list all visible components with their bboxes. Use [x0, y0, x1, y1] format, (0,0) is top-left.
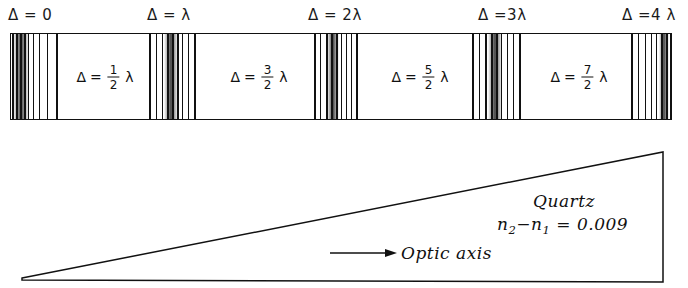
fringe-line [472, 34, 474, 119]
n1-symbol: n1 [531, 214, 550, 234]
band-label-three-half-lambda: Δ = 3 2 λ [230, 63, 287, 90]
fringe-line [182, 34, 183, 119]
fringe-line [188, 34, 189, 119]
fringe-line [24, 34, 26, 119]
lambda-symbol: λ [440, 69, 448, 85]
fringe-line [491, 34, 493, 119]
fringe-line [507, 34, 508, 119]
fringe-line [326, 34, 328, 119]
fraction: 5 2 [423, 63, 435, 90]
fringe-line [194, 34, 196, 119]
fringe-line [519, 34, 521, 119]
fringe-line [670, 34, 672, 119]
equals-symbol: = [244, 69, 256, 85]
fringe-group-order-4 [629, 34, 672, 119]
fringe-line [149, 34, 151, 119]
delta-label-3: Δ =3λ [478, 6, 527, 24]
fringe-line [20, 34, 22, 119]
n2-symbol: n2 [497, 214, 516, 234]
fringe-line [33, 34, 34, 119]
fringe-line [351, 34, 352, 119]
fringe-line [346, 34, 347, 119]
fringe-line [485, 34, 487, 119]
equals-symbol: = [556, 214, 571, 234]
fraction: 3 2 [262, 63, 274, 90]
fringe-line [314, 34, 316, 119]
figure-root: Δ = 0 Δ = λ Δ = 2λ Δ =3λ Δ =4 λ [0, 0, 688, 288]
fraction-numerator: 3 [262, 63, 274, 76]
fringe-line [666, 34, 668, 119]
equals-symbol: = [90, 69, 102, 85]
fringe-line [661, 34, 663, 119]
delta-label-0: Δ = 0 [8, 6, 52, 24]
fringe-line [496, 34, 498, 119]
fraction-denominator: 2 [262, 76, 274, 90]
equals-symbol: = [405, 69, 417, 85]
band-label-five-half-lambda: Δ = 5 2 λ [391, 63, 448, 90]
fringe-line [656, 34, 657, 119]
fringe-line [39, 34, 40, 119]
lambda-symbol: λ [279, 69, 287, 85]
interference-bar: Δ = 1 2 λ Δ = 3 2 λ Δ = 5 2 λ [10, 33, 672, 120]
fraction-numerator: 7 [582, 63, 594, 76]
delta-symbol: Δ [391, 69, 401, 85]
fringe-line [645, 34, 646, 119]
fringe-line [651, 34, 652, 119]
fraction-numerator: 5 [423, 63, 435, 76]
fraction: 1 2 [108, 63, 120, 90]
fringe-line [356, 34, 358, 119]
band-label-seven-half-lambda: Δ = 7 2 λ [550, 63, 607, 90]
fringe-line [56, 34, 58, 119]
lambda-symbol: λ [599, 69, 607, 85]
fringe-line [638, 34, 639, 119]
lambda-symbol: λ [125, 69, 133, 85]
fringe-group-order-2 [313, 34, 358, 119]
fringe-line [631, 34, 633, 119]
fringe-line [331, 34, 333, 119]
delta-symbol: Δ [230, 69, 240, 85]
delta-label-1: Δ = λ [147, 6, 191, 24]
fringe-line [172, 34, 174, 119]
fraction-denominator: 2 [582, 76, 594, 90]
fringe-line [320, 34, 321, 119]
optic-axis-label: Optic axis [401, 243, 492, 263]
fringe-line [177, 34, 179, 119]
delta-symbol: Δ [550, 69, 560, 85]
fringe-line [501, 34, 502, 119]
fringe-group-order-1 [147, 34, 198, 119]
birefringence-value: 0.009 [577, 214, 628, 234]
fringe-group-order-3 [470, 34, 523, 119]
fraction: 7 2 [582, 63, 594, 90]
band-label-half-lambda: Δ = 1 2 λ [76, 63, 133, 90]
fringe-line [28, 34, 29, 119]
birefringence-label: n2−n1 = 0.009 [497, 214, 628, 237]
fringe-line [156, 34, 157, 119]
equals-symbol: = [564, 69, 576, 85]
fringe-line [513, 34, 514, 119]
fringe-line [47, 34, 48, 119]
fraction-denominator: 2 [108, 76, 120, 90]
minus-symbol: − [516, 214, 531, 234]
fringe-line [12, 34, 14, 119]
fraction-denominator: 2 [423, 76, 435, 90]
fringe-line [16, 34, 18, 119]
fringe-line [336, 34, 338, 119]
fringe-line [341, 34, 342, 119]
fringe-group-order-0 [11, 34, 63, 119]
fraction-numerator: 1 [108, 63, 120, 76]
delta-label-2: Δ = 2λ [308, 6, 362, 24]
quartz-material-label: Quartz [533, 191, 595, 211]
delta-label-4: Δ =4 λ [622, 6, 676, 24]
fringe-line [167, 34, 169, 119]
delta-symbol: Δ [76, 69, 86, 85]
fringe-line [162, 34, 163, 119]
fringe-line [479, 34, 480, 119]
